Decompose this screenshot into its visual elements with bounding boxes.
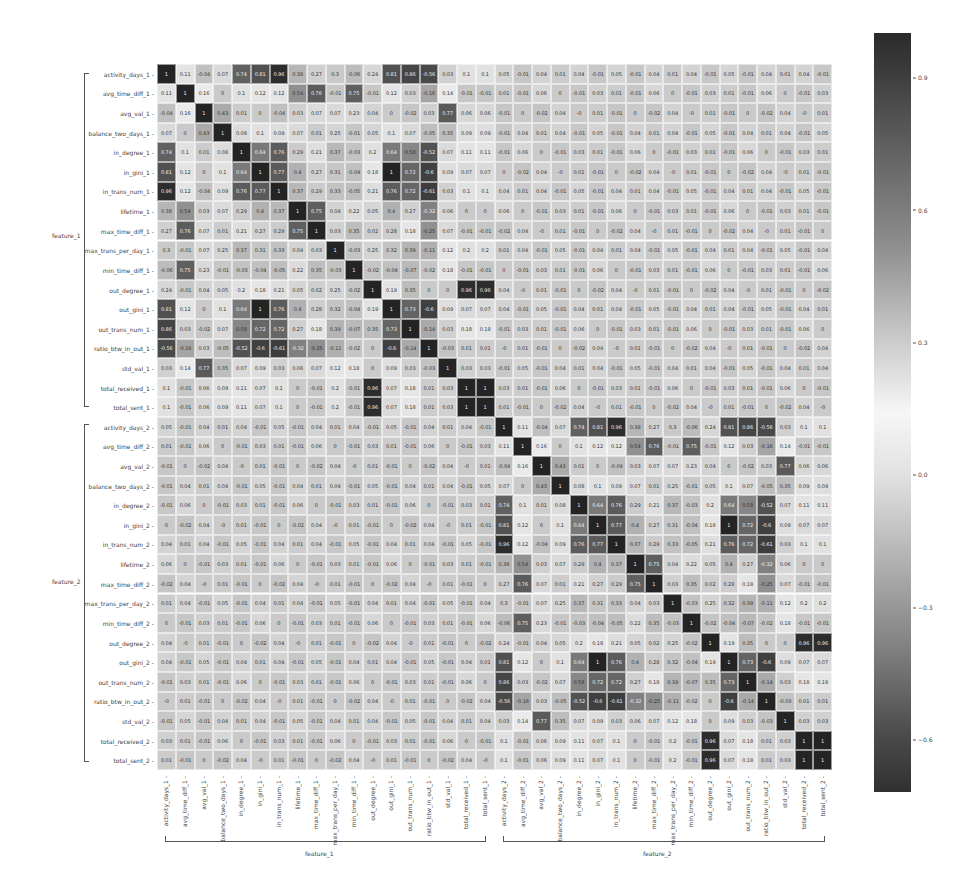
heatmap-cell: 0.11	[232, 378, 251, 398]
heatmap-cell: 0.03	[532, 260, 551, 280]
heatmap-cell: 0	[195, 299, 214, 319]
heatmap-cell: 0.32	[326, 299, 345, 319]
heatmap-cell: -0.6	[382, 339, 401, 359]
heatmap-cell: -0.01	[757, 201, 776, 221]
heatmap-cell: 0.2	[663, 731, 682, 751]
heatmap-cell: 0.14	[513, 711, 532, 731]
x-tick-label: max_time_diff_2 -	[650, 776, 657, 829]
heatmap-cell: 0.06	[551, 378, 570, 398]
heatmap-cell: 0	[813, 554, 832, 574]
y-tick-label: std_val_2 -	[122, 717, 154, 724]
heatmap-cell: 0.04	[326, 201, 345, 221]
heatmap-cell: 0.09	[457, 123, 476, 143]
heatmap-cell: 0.04	[176, 574, 195, 594]
heatmap-cell: 0.2	[476, 241, 495, 261]
heatmap-cell: -0.03	[345, 142, 364, 162]
heatmap-cell: -0.02	[401, 103, 420, 123]
heatmap-cell: -0.01	[513, 299, 532, 319]
heatmap-cell: 0.01	[701, 142, 720, 162]
heatmap-cell: -0.04	[720, 613, 739, 633]
heatmap-cell: 0.18	[307, 319, 326, 339]
heatmap-cell: 1	[495, 417, 514, 437]
heatmap-cell: 0.24	[157, 280, 176, 300]
heatmap-cell: 0.05	[251, 476, 270, 496]
heatmap-cell: 0	[232, 731, 251, 751]
heatmap-cell: 0.07	[195, 241, 214, 261]
heatmap-cell: 0.04	[795, 64, 814, 84]
heatmap-cell: 0.06	[757, 84, 776, 104]
heatmap-cell: 0.04	[682, 299, 701, 319]
heatmap-cell: 0	[776, 84, 795, 104]
heatmap-cell: 0.03	[382, 731, 401, 751]
heatmap-cell: -0.02	[813, 280, 832, 300]
x-tick-label: out_gini_2 -	[725, 776, 732, 811]
heatmap-cell: 0.43	[213, 103, 232, 123]
heatmap-cell: -0.01	[270, 672, 289, 692]
heatmap-cell: 0.06	[795, 456, 814, 476]
heatmap-cell: -0	[401, 633, 420, 653]
heatmap-cell: 0.03	[757, 456, 776, 476]
heatmap-cell: 0.35	[363, 319, 382, 339]
heatmap-cell: 0.31	[326, 162, 345, 182]
heatmap-cell: 0.09	[720, 711, 739, 731]
heatmap-cell: 0.03	[663, 201, 682, 221]
heatmap-cell: 0.23	[345, 103, 364, 123]
heatmap-cell: 0	[588, 221, 607, 241]
heatmap-cell: -0.6	[720, 692, 739, 712]
heatmap-cell: 0.09	[588, 711, 607, 731]
heatmap-cell: 0.04	[645, 64, 664, 84]
heatmap-cell: 0.03	[551, 201, 570, 221]
y-tick-label: lifetime_2 -	[120, 561, 154, 568]
heatmap-cell: -0.01	[720, 142, 739, 162]
heatmap-cell: 0.96	[795, 633, 814, 653]
heatmap-cell: -0.02	[738, 456, 757, 476]
y-group-label-feature-1: feature_1	[52, 232, 80, 239]
heatmap-cell: 0.04	[195, 280, 214, 300]
heatmap-cell: 0.01	[345, 515, 364, 535]
heatmap-cell: -0.04	[345, 162, 364, 182]
heatmap-cell: 0.33	[607, 594, 626, 614]
heatmap-cell: -0.01	[438, 495, 457, 515]
heatmap-cell: 0.03	[420, 613, 439, 633]
heatmap-cell: 0.03	[776, 731, 795, 751]
heatmap-cell: 0.01	[532, 319, 551, 339]
heatmap-cell: 0	[757, 142, 776, 162]
heatmap-cell: -0.01	[195, 731, 214, 751]
heatmap-cell: -0.05	[420, 123, 439, 143]
heatmap-cell: 0.01	[607, 241, 626, 261]
heatmap-cell: -0.01	[795, 221, 814, 241]
heatmap-cell: 0.03	[776, 750, 795, 770]
heatmap-cell: 0.21	[701, 535, 720, 555]
heatmap-cell: 0.76	[607, 652, 626, 672]
heatmap-cell: 0	[588, 456, 607, 476]
heatmap-cell: 0.12	[720, 437, 739, 457]
heatmap-cell: 0.03	[626, 456, 645, 476]
heatmap-cell: 0.38	[288, 64, 307, 84]
heatmap-cell: 1	[345, 260, 364, 280]
heatmap-cell: 0.03	[645, 260, 664, 280]
heatmap-cell: -0.01	[588, 201, 607, 221]
heatmap-cell: 0.2	[813, 594, 832, 614]
heatmap-cell: -0.01	[345, 574, 364, 594]
heatmap-cell: 0.03	[270, 731, 289, 751]
heatmap-cell: 0.4	[251, 201, 270, 221]
heatmap-cell: 0.16	[532, 437, 551, 457]
heatmap-cell: -0.01	[701, 182, 720, 202]
heatmap-cell: 0.96	[701, 750, 720, 770]
heatmap-cell: 0.01	[720, 241, 739, 261]
heatmap-cell: 0.04	[757, 64, 776, 84]
heatmap-cell: -0.01	[682, 260, 701, 280]
heatmap-cell: -0.01	[682, 476, 701, 496]
heatmap-cell: 0.21	[363, 182, 382, 202]
heatmap-cell: 0.11	[513, 417, 532, 437]
heatmap-cell: -0.07	[738, 613, 757, 633]
heatmap-cell: -0.04	[607, 456, 626, 476]
heatmap-cell: 0.04	[438, 476, 457, 496]
heatmap-cell: -0.01	[176, 613, 195, 633]
heatmap-cell: -0.02	[307, 456, 326, 476]
heatmap-cell: 0.01	[176, 731, 195, 751]
heatmap-cell: 0.01	[757, 319, 776, 339]
heatmap-cell: 0.96	[701, 731, 720, 751]
heatmap-cell: -0.01	[645, 731, 664, 751]
heatmap-cell: 0.05	[720, 64, 739, 84]
